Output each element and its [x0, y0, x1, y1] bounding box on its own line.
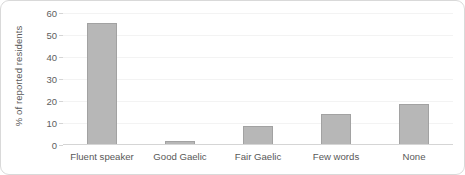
bar-slot-fluent-speaker	[63, 13, 141, 145]
bar-group	[63, 13, 453, 145]
x-tick-label-good-gaelic: Good Gaelic	[153, 151, 206, 162]
x-tick-label-none: None	[403, 151, 426, 162]
bar-slot-good-gaelic	[141, 13, 219, 145]
bar-slot-few-words	[297, 13, 375, 145]
y-tick-label-60: 60	[37, 8, 57, 19]
x-tick-label-fluent-speaker: Fluent speaker	[70, 151, 133, 162]
bar-slot-fair-gaelic	[219, 13, 297, 145]
y-tick-label-0: 0	[37, 140, 57, 151]
bar-slot-none	[375, 13, 453, 145]
y-tick-label-20: 20	[37, 96, 57, 107]
y-tick-mark-0	[59, 145, 63, 146]
plot-area	[63, 13, 453, 145]
y-tick-label-10: 10	[37, 118, 57, 129]
y-tick-label-40: 40	[37, 52, 57, 63]
bar-few-words[interactable]	[321, 114, 351, 145]
bar-fluent-speaker[interactable]	[87, 23, 117, 145]
bar-none[interactable]	[399, 104, 429, 145]
x-axis-label-group: Fluent speaker Good Gaelic Fair Gaelic F…	[63, 151, 453, 169]
y-tick-label-30: 30	[37, 74, 57, 85]
x-tick-label-fair-gaelic: Fair Gaelic	[235, 151, 281, 162]
bar-chart-figure: % of reported residents 60 50 40 30 20 1…	[0, 0, 465, 175]
y-axis-title: % of reported residents	[9, 1, 27, 151]
y-tick-label-50: 50	[37, 30, 57, 41]
x-tick-label-few-words: Few words	[313, 151, 359, 162]
bar-fair-gaelic[interactable]	[243, 126, 273, 145]
x-axis-line	[63, 144, 453, 145]
